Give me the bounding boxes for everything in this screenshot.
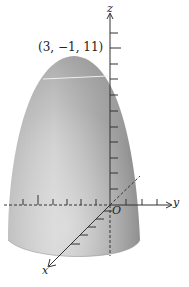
origin-label: O	[112, 204, 121, 217]
y-axis-label: y	[173, 196, 179, 209]
paraboloid-surface	[8, 56, 140, 257]
z-axis-label: z	[107, 2, 113, 15]
paraboloid-figure: (3, −1, 11) z y x O	[0, 0, 189, 287]
x-axis-label: x	[42, 264, 48, 277]
vertex-point-label: (3, −1, 11)	[38, 40, 103, 54]
